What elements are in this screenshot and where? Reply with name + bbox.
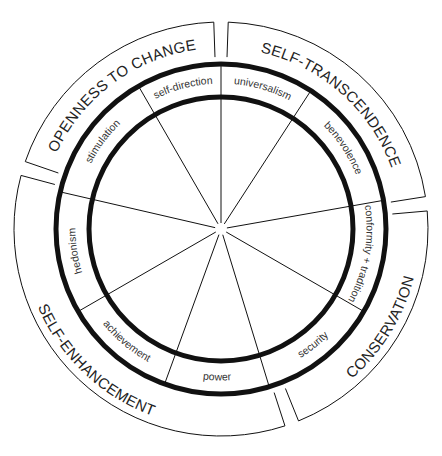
values-circumplex-diagram: universalismbenevolenceconformity + trad… <box>0 0 442 456</box>
value-label-power: power <box>203 369 232 382</box>
value-label-stimulation: stimulation <box>82 116 122 164</box>
spoke-line <box>226 232 364 312</box>
spoke-line <box>60 192 215 228</box>
domain-label-self-enhancement: SELF-ENHANCEMENT <box>35 301 158 419</box>
spoke-line <box>139 86 219 224</box>
spoke-line <box>223 235 269 387</box>
domain-bracket-self-transcendence <box>227 22 425 202</box>
domain-bracket-conservation <box>285 211 428 421</box>
value-label-benevolence: benevolence <box>322 119 365 176</box>
spoke-line <box>224 91 311 224</box>
circumplex-svg: universalismbenevolenceconformity + trad… <box>0 0 442 456</box>
value-label-hedonism: hedonism <box>65 228 84 276</box>
spoke-line <box>227 200 384 228</box>
